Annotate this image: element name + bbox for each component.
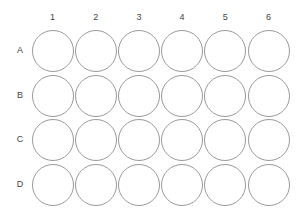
- well-C5: [204, 119, 246, 161]
- well-B6: [248, 75, 290, 117]
- well-A6: [248, 30, 290, 72]
- column-label: 4: [172, 12, 192, 22]
- well-D6: [248, 164, 290, 206]
- well-plate-diagram: 1 2 3 4 5 6 A B C D: [0, 0, 304, 219]
- well-C2: [75, 119, 117, 161]
- well-B2: [75, 75, 117, 117]
- well-C6: [248, 119, 290, 161]
- well-A5: [204, 30, 246, 72]
- well-C1: [32, 119, 74, 161]
- row-label: A: [14, 45, 26, 55]
- well-D5: [204, 164, 246, 206]
- well-C3: [118, 119, 160, 161]
- well-A4: [161, 30, 203, 72]
- column-label: 3: [129, 12, 149, 22]
- well-D1: [32, 164, 74, 206]
- column-label: 6: [259, 12, 279, 22]
- row-label: D: [14, 179, 26, 189]
- well-B3: [118, 75, 160, 117]
- well-D4: [161, 164, 203, 206]
- column-label: 2: [86, 12, 106, 22]
- row-label: B: [14, 90, 26, 100]
- column-label: 5: [215, 12, 235, 22]
- well-B1: [32, 75, 74, 117]
- row-label: C: [14, 134, 26, 144]
- well-D3: [118, 164, 160, 206]
- column-label: 1: [43, 12, 63, 22]
- well-A3: [118, 30, 160, 72]
- well-A2: [75, 30, 117, 72]
- well-A1: [32, 30, 74, 72]
- well-B5: [204, 75, 246, 117]
- well-C4: [161, 119, 203, 161]
- well-D2: [75, 164, 117, 206]
- well-B4: [161, 75, 203, 117]
